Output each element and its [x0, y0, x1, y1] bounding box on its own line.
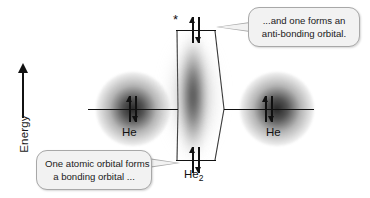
- bonding-callout-line-2: a bonding orbital ...: [45, 170, 143, 183]
- antibonding-electron-pair: [187, 17, 205, 43]
- molecule-label: He2: [184, 168, 203, 183]
- spin-up-arrow-icon: [129, 96, 131, 122]
- left-atom-label: He: [122, 126, 137, 138]
- spin-down-arrow-icon: [198, 17, 200, 43]
- spin-down-arrow-icon: [271, 96, 273, 122]
- spin-up-arrow-icon: [265, 96, 267, 122]
- antibonding-callout-line-1: ...and one forms an: [257, 14, 351, 27]
- antibonding-callout-line-2: anti-bonding orbital.: [257, 27, 351, 40]
- spin-up-arrow-icon: [192, 17, 194, 43]
- right-atom-label: He: [266, 126, 281, 138]
- antibonding-star-label: *: [173, 12, 178, 27]
- spin-down-arrow-icon: [135, 96, 137, 122]
- bonding-callout: One atomic orbital forms a bonding orbit…: [36, 150, 152, 190]
- bonding-callout-line-1: One atomic orbital forms: [45, 157, 143, 170]
- left-atomic-electron-pair: [124, 96, 142, 122]
- mo-diagram-figure: Energy: [0, 0, 370, 198]
- top-callout-tail: [218, 23, 250, 31]
- antibonding-callout: ...and one forms an anti-bonding orbital…: [248, 7, 360, 47]
- molecule-label-symbol: He: [184, 168, 199, 180]
- molecule-label-subscript: 2: [199, 173, 204, 183]
- right-atomic-electron-pair: [260, 96, 278, 122]
